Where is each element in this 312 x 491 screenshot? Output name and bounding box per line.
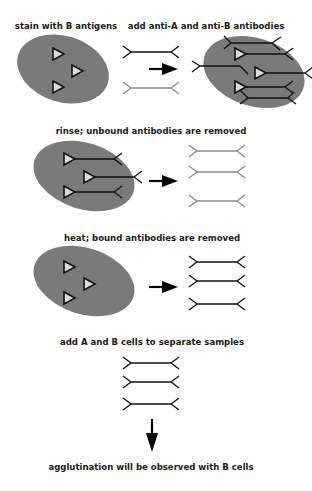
removed-antibodies — [189, 145, 245, 207]
added-antibodies — [123, 46, 179, 94]
step-6: agglutination will be observed with B ce… — [48, 461, 253, 472]
cell-icon — [8, 23, 118, 115]
step-1: stain with B antigens — [8, 20, 118, 115]
unbound-antibody-icon — [189, 195, 245, 207]
rinsed-cell — [24, 129, 143, 224]
heated-cell — [24, 234, 143, 329]
arrow-down-icon — [146, 419, 158, 452]
result-label: agglutination will be observed with B ce… — [48, 461, 253, 472]
arrow-right-icon — [149, 175, 178, 187]
cell-with-b-antigens — [8, 23, 118, 115]
cell-with-antibodies — [192, 24, 312, 121]
diagram-canvas: stain with B antigens add anti-A and ant… — [0, 0, 312, 491]
step-2: add anti-A and anti-B antibodies — [128, 20, 312, 120]
released-antibody-icon — [189, 298, 245, 310]
step-5-label: add A and B cells to separate samples — [60, 336, 244, 347]
antibody-icon — [123, 376, 179, 388]
test-antibodies — [123, 357, 179, 410]
antibody-icon — [123, 398, 179, 410]
arrow-right-icon — [149, 281, 178, 293]
released-antibodies — [189, 256, 245, 310]
cell-icon — [194, 24, 312, 121]
released-antibody-icon — [189, 275, 245, 287]
step-1-label: stain with B antigens — [15, 20, 117, 31]
anti-a-antibody-icon — [123, 46, 179, 58]
released-antibody-icon — [189, 256, 245, 268]
arrow-right-icon — [149, 63, 178, 75]
step-3: rinse; unbound antibodies are removed — [24, 125, 246, 223]
anti-b-antibody-icon — [123, 82, 179, 94]
step-4: heat; bound antibodies are removed — [24, 232, 245, 328]
step-2-label: add anti-A and anti-B antibodies — [128, 20, 285, 31]
antibody-icon — [123, 357, 179, 369]
unbound-antibody-icon — [189, 166, 245, 178]
step-3-label: rinse; unbound antibodies are removed — [56, 125, 247, 136]
step-5: add A and B cells to separate samples — [60, 336, 244, 452]
step-4-label: heat; bound antibodies are removed — [64, 232, 240, 243]
unbound-antibody-icon — [189, 145, 245, 157]
